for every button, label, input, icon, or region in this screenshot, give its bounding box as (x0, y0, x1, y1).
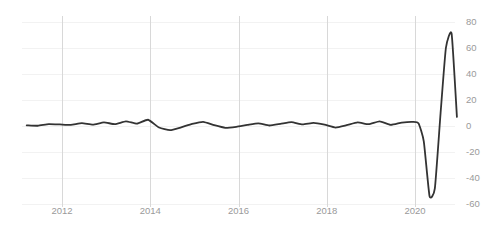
y-axis-tick-label: 40 (466, 68, 477, 79)
x-axis-tick-label: 2018 (316, 205, 337, 216)
y-axis-tick-label: 0 (466, 120, 471, 131)
y-axis-tick-label: 80 (466, 16, 477, 27)
y-axis-tick-label: -20 (466, 146, 480, 157)
y-axis-tick-label: 60 (466, 42, 477, 53)
x-axis-tick-label: 2020 (404, 205, 425, 216)
y-axis-tick-labels: 806040200-20-40-60 (466, 16, 480, 209)
x-axis-tick-label: 2012 (51, 205, 72, 216)
data-series-line (27, 32, 457, 197)
y-axis-tick-label: -60 (466, 198, 480, 209)
y-axis-tick-label: -40 (466, 172, 480, 183)
x-axis-tick-label: 2016 (228, 205, 249, 216)
y-axis-tick-label: 20 (466, 94, 477, 105)
horizontal-gridlines (22, 23, 455, 205)
chart-container: 20122014201620182020 806040200-20-40-60 (0, 0, 503, 229)
x-axis-tick-labels: 20122014201620182020 (51, 205, 425, 216)
x-axis-tick-label: 2014 (140, 205, 161, 216)
line-chart: 20122014201620182020 806040200-20-40-60 (0, 0, 503, 229)
